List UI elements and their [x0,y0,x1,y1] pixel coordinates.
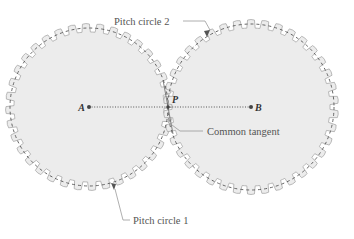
pitch-point-p [166,105,170,109]
center-point-b [249,105,253,109]
pitch-circle-1-leader [115,189,130,220]
label-p: P [172,94,179,105]
pitch-circle-2-leader [183,21,210,30]
pitch-circle-2-label: Pitch circle 2 [114,16,169,27]
gear-mesh-diagram: A B P Pitch circle 2 Pitch circle 1 Comm… [0,0,354,239]
center-point-a [87,105,91,109]
common-tangent-label: Common tangent [207,126,280,137]
label-b: B [254,102,262,113]
pitch-circle-1-label: Pitch circle 1 [133,215,188,226]
label-a: A [77,102,85,113]
